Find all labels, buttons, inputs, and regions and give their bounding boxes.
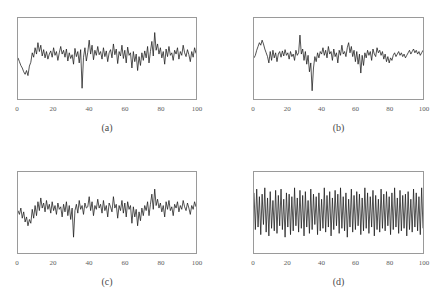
x-tick-label: 80 xyxy=(158,258,165,268)
x-tick-label: 60 xyxy=(122,104,129,114)
plot-svg-d xyxy=(254,172,423,253)
x-tick-label: 80 xyxy=(386,104,393,114)
panel-caption-a: (a) xyxy=(17,122,197,133)
x-tick-label: 0 xyxy=(251,258,255,268)
panel-b: 020406080100 (b) xyxy=(220,0,441,154)
panel-caption-c: (c) xyxy=(17,276,197,287)
x-axis-d: 020406080100 xyxy=(253,258,424,270)
series-line-d xyxy=(254,188,423,237)
panel-a: 020406080100 (a) xyxy=(0,0,220,154)
plot-frame-d xyxy=(253,171,424,254)
panel-d: 020406080100 (d) xyxy=(220,154,441,308)
plot-frame-b xyxy=(253,17,424,100)
figure-panel-grid: 020406080100 (a) 020406080100 (b) 020406… xyxy=(0,0,441,308)
x-tick-label: 60 xyxy=(122,258,129,268)
x-tick-label: 20 xyxy=(50,104,57,114)
panel-caption-d: (d) xyxy=(253,276,424,287)
x-tick-label: 0 xyxy=(15,258,19,268)
x-tick-label: 100 xyxy=(192,258,203,268)
series-line-a xyxy=(18,33,196,89)
x-tick-label: 20 xyxy=(50,258,57,268)
x-tick-label: 0 xyxy=(251,104,255,114)
x-tick-label: 60 xyxy=(352,104,359,114)
series-line-c xyxy=(18,189,196,237)
x-tick-label: 100 xyxy=(419,258,430,268)
plot-frame-a xyxy=(17,17,197,100)
x-tick-label: 100 xyxy=(419,104,430,114)
x-tick-label: 20 xyxy=(284,104,291,114)
series-line-b xyxy=(254,35,423,91)
x-tick-label: 40 xyxy=(86,258,93,268)
plot-svg-c xyxy=(18,172,196,253)
x-tick-label: 60 xyxy=(352,258,359,268)
panel-caption-b: (b) xyxy=(253,122,424,133)
plot-frame-c xyxy=(17,171,197,254)
x-tick-label: 40 xyxy=(318,258,325,268)
x-axis-b: 020406080100 xyxy=(253,104,424,116)
plot-svg-a xyxy=(18,18,196,99)
x-tick-label: 20 xyxy=(284,258,291,268)
x-tick-label: 100 xyxy=(192,104,203,114)
x-axis-a: 020406080100 xyxy=(17,104,197,116)
x-axis-c: 020406080100 xyxy=(17,258,197,270)
x-tick-label: 0 xyxy=(15,104,19,114)
x-tick-label: 40 xyxy=(318,104,325,114)
plot-svg-b xyxy=(254,18,423,99)
x-tick-label: 80 xyxy=(158,104,165,114)
x-tick-label: 40 xyxy=(86,104,93,114)
x-tick-label: 80 xyxy=(386,258,393,268)
panel-c: 020406080100 (c) xyxy=(0,154,220,308)
